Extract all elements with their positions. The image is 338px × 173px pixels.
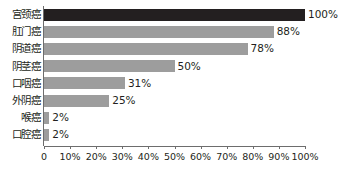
category-label: 宫颈癌	[0, 6, 41, 23]
x-axis-tick	[122, 146, 123, 149]
plot-area: 宫颈癌100%肛门癌88%阴道癌78%阴茎癌50%口咽癌31%外阴癌25%喉癌2…	[0, 6, 320, 146]
category-label: 阴茎癌	[0, 58, 41, 75]
y-axis-line	[43, 6, 44, 146]
x-axis-tick-label: 20%	[86, 151, 107, 162]
bar-track: 100%	[44, 6, 305, 23]
bar-track: 78%	[44, 40, 305, 57]
x-axis-tick	[44, 146, 45, 149]
category-label: 肛门癌	[0, 23, 41, 40]
bar-value-label: 88%	[274, 23, 300, 40]
category-label: 喉癌	[0, 109, 41, 126]
bar-track: 31%	[44, 75, 305, 92]
x-axis-tick	[279, 146, 280, 149]
bar-row: 肛门癌88%	[0, 23, 320, 40]
bar-row: 口咽癌31%	[0, 75, 320, 92]
category-label: 口咽癌	[0, 75, 41, 92]
bar-value-label: 25%	[109, 92, 135, 109]
x-axis-tick-label: 0	[41, 151, 47, 162]
bar-row: 阴道癌78%	[0, 40, 320, 57]
category-label: 外阴癌	[0, 92, 41, 109]
x-axis-tick	[253, 146, 254, 149]
x-axis-tick-label: 100%	[291, 151, 318, 162]
x-axis-tick-label: 30%	[112, 151, 133, 162]
bar-row: 口腔癌2%	[0, 126, 320, 143]
x-axis-tick-label: 70%	[216, 151, 237, 162]
bar-row: 喉癌2%	[0, 109, 320, 126]
x-axis-tick-label: 90%	[268, 151, 289, 162]
category-label: 口腔癌	[0, 126, 41, 143]
bar-track: 2%	[44, 109, 305, 126]
bar	[44, 26, 274, 38]
bar-row: 宫颈癌100%	[0, 6, 320, 23]
x-axis-tick	[201, 146, 202, 149]
x-axis-tick	[96, 146, 97, 149]
x-axis-tick	[227, 146, 228, 149]
bar	[44, 95, 109, 107]
bar-value-label: 78%	[248, 40, 274, 57]
x-axis-tick-label: 50%	[164, 151, 185, 162]
bar	[44, 43, 248, 55]
bar-value-label: 2%	[49, 109, 69, 126]
category-label: 阴道癌	[0, 40, 41, 57]
x-axis-tick	[148, 146, 149, 149]
x-axis-tick	[175, 146, 176, 149]
bar-track: 88%	[44, 23, 305, 40]
bar	[44, 77, 125, 89]
x-axis-tick	[305, 146, 306, 149]
bar-row: 阴茎癌50%	[0, 58, 320, 75]
bar-value-label: 2%	[49, 126, 69, 143]
bar-value-label: 100%	[305, 6, 338, 23]
bar-value-label: 50%	[175, 58, 201, 75]
x-axis-tick-label: 60%	[190, 151, 211, 162]
bar	[44, 60, 175, 72]
bar-row: 外阴癌25%	[0, 92, 320, 109]
bar-track: 50%	[44, 58, 305, 75]
bar-track: 2%	[44, 126, 305, 143]
x-axis-tick-label: 80%	[242, 151, 263, 162]
bar	[44, 9, 305, 21]
x-axis-tick	[70, 146, 71, 149]
bar-value-label: 31%	[125, 75, 151, 92]
x-axis-tick-label: 40%	[138, 151, 159, 162]
x-axis-tick-label: 10%	[60, 151, 81, 162]
bar-track: 25%	[44, 92, 305, 109]
